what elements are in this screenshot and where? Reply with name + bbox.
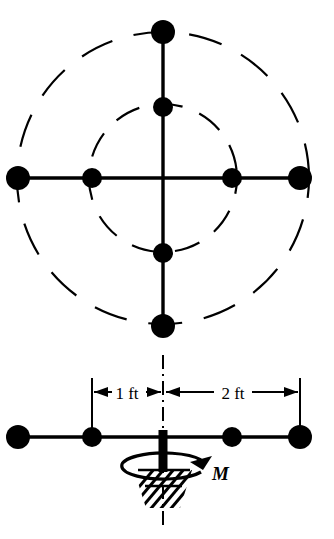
vertical-shaft bbox=[159, 430, 168, 472]
dimension-2ft: 2 ft bbox=[166, 384, 298, 403]
sphere-top-inner bbox=[153, 97, 173, 117]
engineering-diagram: 1 ft 2 ft bbox=[0, 0, 334, 539]
dimension-2ft-arrow-left bbox=[166, 387, 180, 397]
sphere-bottom-inner bbox=[153, 243, 173, 263]
sphere-front-right-inner bbox=[222, 427, 242, 447]
dimension-group: 1 ft 2 ft bbox=[92, 378, 300, 430]
dimension-1ft-label: 1 ft bbox=[115, 384, 138, 403]
sphere-front-right-outer bbox=[288, 425, 312, 449]
dimension-2ft-label: 2 ft bbox=[221, 384, 244, 403]
sphere-left-inner bbox=[82, 168, 102, 188]
sphere-right-outer bbox=[288, 166, 312, 190]
sphere-bottom-outer bbox=[151, 314, 175, 338]
sphere-right-inner bbox=[222, 168, 242, 188]
dimension-1ft: 1 ft bbox=[94, 384, 161, 403]
dimension-2ft-arrow-right bbox=[284, 387, 298, 397]
top-view bbox=[6, 20, 312, 338]
figure-page: 1 ft 2 ft bbox=[0, 0, 334, 539]
sphere-front-left-inner bbox=[82, 427, 102, 447]
front-view: M bbox=[6, 355, 312, 525]
sphere-front-left-outer bbox=[6, 425, 30, 449]
dimension-1ft-arrow-right bbox=[147, 387, 161, 397]
sphere-left-outer bbox=[6, 166, 30, 190]
dimension-1ft-arrow-left bbox=[94, 387, 108, 397]
moment-label: M bbox=[211, 463, 230, 484]
sphere-top-outer bbox=[151, 20, 175, 44]
